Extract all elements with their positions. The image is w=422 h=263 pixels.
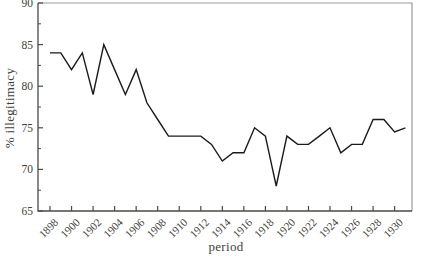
chart-container: 6570758085901898190019021904190619081910… <box>0 0 422 263</box>
y-tick-label: 80 <box>22 80 34 92</box>
x-tick-label: 1908 <box>144 216 168 240</box>
y-tick-label: 75 <box>22 122 34 134</box>
x-tick-label: 1900 <box>58 216 82 240</box>
x-tick-label: 1916 <box>230 216 254 240</box>
line-chart-plot: 6570758085901898190019021904190619081910… <box>0 0 422 263</box>
x-axis-label: period <box>208 239 243 255</box>
x-tick-label: 1910 <box>166 216 190 240</box>
y-tick-label: 85 <box>22 39 34 51</box>
y-axis-label: % illegitimacy <box>2 68 18 148</box>
x-tick-label: 1906 <box>123 216 147 240</box>
x-tick-label: 1930 <box>381 216 405 240</box>
y-tick-label: 65 <box>22 205 34 217</box>
y-tick-label: 90 <box>22 0 34 9</box>
x-tick-label: 1904 <box>101 216 125 240</box>
x-tick-label: 1922 <box>295 216 319 240</box>
x-tick-label: 1914 <box>209 216 233 240</box>
x-tick-label: 1920 <box>273 216 297 240</box>
y-tick-label: 70 <box>22 163 34 175</box>
x-tick-label: 1902 <box>79 216 103 240</box>
plot-frame <box>38 3 412 211</box>
x-tick-label: 1926 <box>338 216 362 240</box>
x-tick-label: 1898 <box>36 216 60 240</box>
x-tick-label: 1918 <box>252 216 276 240</box>
illegitimacy-series-line <box>50 45 405 186</box>
x-tick-label: 1924 <box>316 216 340 240</box>
x-tick-label: 1928 <box>359 216 383 240</box>
x-tick-label: 1912 <box>187 216 211 240</box>
axes <box>38 3 412 211</box>
